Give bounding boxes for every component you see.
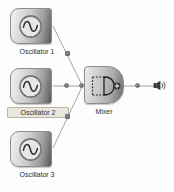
- node-oscillator-1[interactable]: Oscillator 1: [10, 8, 52, 44]
- node-body[interactable]: [10, 8, 52, 44]
- osc2-output-port[interactable]: [64, 83, 69, 88]
- patch-canvas[interactable]: Oscillator 1 Oscillator 2 Oscillator 3: [0, 0, 174, 192]
- speaker-output-icon[interactable]: [153, 80, 166, 91]
- node-body[interactable]: [10, 131, 52, 167]
- summing-mixer-icon: [90, 74, 121, 98]
- node-label-oscillator-3: Oscillator 3: [6, 170, 68, 179]
- node-oscillator-2[interactable]: Oscillator 2: [10, 68, 52, 104]
- mixer-input-port[interactable]: [79, 83, 84, 88]
- sine-wave-icon: [18, 74, 43, 99]
- node-oscillator-3[interactable]: Oscillator 3: [10, 131, 52, 167]
- node-body[interactable]: [84, 66, 124, 104]
- sine-wave-icon: [18, 137, 43, 162]
- node-label-oscillator-2[interactable]: Oscillator 2: [7, 107, 69, 118]
- node-mixer[interactable]: Mixer: [84, 66, 124, 104]
- node-body[interactable]: [10, 68, 52, 104]
- node-label-mixer: Mixer: [76, 107, 132, 116]
- sine-wave-icon: [18, 14, 43, 39]
- osc1-output-port[interactable]: [65, 51, 70, 56]
- osc3-output-port[interactable]: [65, 114, 70, 119]
- node-label-oscillator-1: Oscillator 1: [6, 47, 68, 56]
- mixer-output-port[interactable]: [135, 83, 140, 88]
